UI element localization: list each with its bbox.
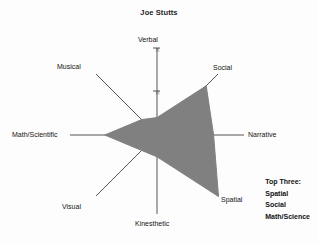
tick-label-10: 10 [157,91,161,95]
axis-label-visual: Visual [62,203,81,210]
tick-label-20: 20 [157,48,161,52]
axis-label-math-scientific: Math/Scientific [12,131,58,138]
axis-label-musical: Musical [57,63,81,70]
top-three-heading: Top Three: [265,176,310,188]
axis-label-verbal: Verbal [138,36,158,43]
top-three-callout: Top Three: Spatial Social Math/Science [265,176,310,222]
axis-label-kinesthetic: Kinesthetic [135,220,169,227]
top-three-item-2: Social [265,199,310,211]
axis-label-spatial: Spatial [221,196,242,203]
axis-label-narrative: Narrative [248,131,276,138]
top-three-item-3: Math/Science [265,211,310,223]
axis-label-social: Social [213,64,232,71]
radar-chart-figure: Joe Stutts Verbal Social Narrative Spati… [0,0,318,244]
top-three-item-1: Spatial [265,188,310,200]
radar-data-polygon [105,86,219,197]
